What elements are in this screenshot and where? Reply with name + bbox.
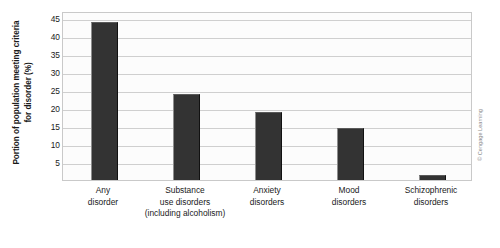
- y-axis-title-line-1: Portion of population meeting criteria: [11, 20, 23, 164]
- x-axis-category-label: Schizophrenicdisorders: [390, 185, 472, 208]
- y-axis-tick-label: 45: [40, 15, 60, 24]
- gridline: [63, 38, 471, 39]
- y-axis-tick-label: 20: [40, 105, 60, 114]
- x-axis-category-label-line: disorders: [308, 197, 390, 209]
- x-axis-category-label: Anydisorder: [62, 185, 144, 208]
- bar: [419, 175, 446, 180]
- x-axis-category-label-line: Substance: [144, 185, 226, 197]
- x-axis-category-labels: AnydisorderSubstanceuse disorders(includ…: [62, 185, 472, 245]
- y-axis-title: Portion of population meeting criteria f…: [0, 0, 44, 185]
- y-axis-tick-label: 25: [40, 87, 60, 96]
- x-axis-category-label-line: Mood: [308, 185, 390, 197]
- x-axis-category-label: Substanceuse disorders(including alcohol…: [144, 185, 226, 220]
- x-axis-category-label-line: disorders: [390, 197, 472, 209]
- x-axis-category-label: Mooddisorders: [308, 185, 390, 208]
- copyright-credit-text: © Cengage Learning: [477, 85, 483, 185]
- x-axis-category-label-line: disorder: [62, 197, 144, 209]
- y-axis-title-line-2: for disorder (%): [22, 20, 34, 164]
- gridline: [63, 74, 471, 75]
- x-axis-category-label: Anxietydisorders: [226, 185, 308, 208]
- bar: [91, 22, 118, 180]
- plot-area: [62, 12, 472, 181]
- bar: [173, 94, 200, 180]
- y-axis-tick-label: 15: [40, 123, 60, 132]
- y-axis-tick-label: 30: [40, 69, 60, 78]
- bar-chart-figure: Portion of population meeting criteria f…: [0, 0, 500, 248]
- gridline: [63, 20, 471, 21]
- y-axis-tick-label: 10: [40, 141, 60, 150]
- bar: [255, 112, 282, 180]
- y-axis-tick-label: 35: [40, 51, 60, 60]
- copyright-credit: © Cengage Learning: [472, 88, 486, 188]
- x-axis-category-label-line: Anxiety: [226, 185, 308, 197]
- x-axis-category-label-line: disorders: [226, 197, 308, 209]
- x-axis-category-label-line: use disorders: [144, 197, 226, 209]
- y-axis-tick-label: 5: [40, 159, 60, 168]
- x-axis-category-label-line: Any: [62, 185, 144, 197]
- gridline: [63, 56, 471, 57]
- y-axis-tick-labels: 51015202530354045: [40, 12, 60, 181]
- y-axis-tick-label: 40: [40, 33, 60, 42]
- bar: [337, 128, 364, 180]
- x-axis-category-label-line: Schizophrenic: [390, 185, 472, 197]
- gridline: [63, 92, 471, 93]
- x-axis-category-label-line: (including alcoholism): [144, 208, 226, 220]
